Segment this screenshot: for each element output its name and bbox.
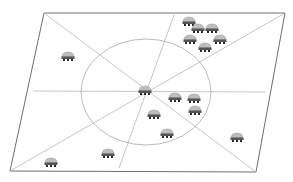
robot-icon xyxy=(148,110,161,119)
robot-icon xyxy=(139,86,152,95)
robot-icon xyxy=(183,17,196,26)
robot-icon xyxy=(102,149,115,158)
robot-icon xyxy=(192,24,205,33)
robot-icon xyxy=(231,133,244,142)
robot-icon xyxy=(45,158,58,167)
robot-icon xyxy=(169,93,182,102)
robot-icon xyxy=(214,35,227,44)
robot-icon xyxy=(206,24,219,33)
robot-icon xyxy=(62,52,75,61)
robot-icon xyxy=(184,35,197,44)
robot-icon xyxy=(189,106,202,115)
robot-icon xyxy=(199,43,212,52)
robot-swarm-diagram xyxy=(0,0,293,182)
robot-icon xyxy=(188,94,201,103)
robot-icon xyxy=(161,129,174,138)
